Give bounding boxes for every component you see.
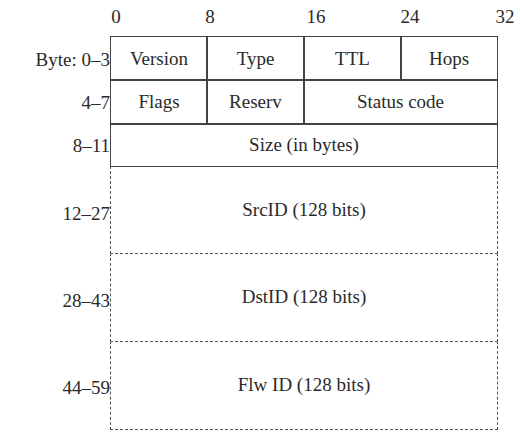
bit-tick-16: 16 — [307, 6, 326, 28]
row-label-28-43: 28–43 — [63, 290, 111, 312]
field-size-label: Size (in bytes) — [249, 134, 359, 156]
field-status-code: Status code — [303, 79, 498, 125]
row-label-4-7: 4–7 — [82, 92, 111, 114]
field-type-label: Type — [237, 48, 275, 70]
field-hops-label: Hops — [429, 48, 469, 70]
bit-tick-32: 32 — [496, 6, 515, 28]
row-label-0-3: Byte: 0–3 — [36, 49, 110, 71]
field-flags-label: Flags — [138, 91, 179, 113]
field-dst-id: DstID (128 bits) — [110, 253, 498, 342]
row-label-44-59: 44–59 — [63, 377, 111, 399]
divider-dashed — [110, 253, 498, 254]
divider-dashed — [110, 341, 498, 342]
field-size: Size (in bytes) — [110, 123, 498, 167]
field-type: Type — [206, 36, 305, 81]
field-src-id: SrcID (128 bits) — [110, 166, 498, 254]
field-ttl-label: TTL — [335, 48, 370, 70]
field-hops: Hops — [400, 36, 498, 81]
field-flow-id: Flw ID (128 bits) — [110, 341, 498, 430]
row-label-12-27: 12–27 — [63, 203, 111, 225]
field-flow-id-label: Flw ID (128 bits) — [238, 374, 370, 396]
field-status-code-label: Status code — [357, 91, 444, 113]
field-ttl: TTL — [303, 36, 402, 81]
field-dst-id-label: DstID (128 bits) — [242, 286, 367, 308]
bit-tick-0: 0 — [111, 6, 121, 28]
field-reserved: Reserv — [206, 79, 305, 125]
row-label-8-11: 8–11 — [73, 135, 110, 157]
field-flags: Flags — [110, 79, 208, 125]
field-src-id-label: SrcID (128 bits) — [242, 199, 365, 221]
bit-tick-24: 24 — [401, 6, 420, 28]
field-version-label: Version — [130, 48, 188, 70]
bit-tick-8: 8 — [205, 6, 215, 28]
field-reserved-label: Reserv — [229, 91, 282, 113]
field-version: Version — [110, 36, 208, 81]
